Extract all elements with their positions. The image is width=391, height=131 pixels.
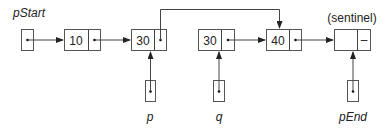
- sentinel-label: (sentinel): [327, 11, 376, 25]
- pend-label: pEnd: [338, 110, 367, 124]
- node-value: 40: [271, 34, 285, 48]
- null-marker: –: [361, 33, 368, 47]
- node-30-p: 30: [132, 30, 167, 51]
- node-value: 30: [136, 34, 150, 48]
- node-value: 10: [69, 34, 83, 48]
- p-label: p: [146, 110, 154, 124]
- pstart-label: pStart: [12, 6, 46, 20]
- sentinel-node: –: [335, 30, 371, 51]
- linked-list-diagram: pStart 10 30 30 40 (sentinel): [0, 0, 391, 131]
- q-label: q: [216, 110, 223, 124]
- node-value: 30: [203, 34, 217, 48]
